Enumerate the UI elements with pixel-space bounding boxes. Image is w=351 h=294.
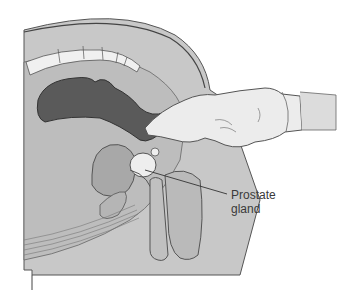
prostate-label: Prostate gland — [231, 188, 276, 216]
forearm — [300, 92, 336, 130]
seminal-vesicle — [151, 148, 159, 156]
prostate-label-line2: gland — [231, 202, 276, 216]
prostate-label-line1: Prostate — [231, 188, 276, 202]
bladder — [92, 145, 135, 197]
prostate-gland — [130, 153, 156, 177]
anatomy-illustration — [0, 0, 351, 294]
